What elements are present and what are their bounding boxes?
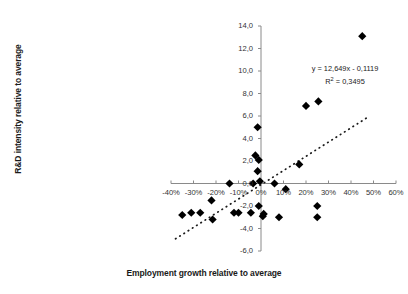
data-point-marker <box>314 97 322 105</box>
y-tick-label: 12,0 <box>219 44 253 53</box>
data-point-marker <box>256 177 264 185</box>
data-point-marker <box>313 202 321 210</box>
y-tick-label: -2,0 <box>219 201 253 210</box>
data-point-marker <box>270 179 278 187</box>
y-tick-label: -6,0 <box>219 246 253 255</box>
data-point-marker <box>187 209 195 217</box>
regression-annotation: y = 12,649x - 0,1119 R2 = 0,3495 <box>295 64 395 87</box>
scatter-chart: R&D intensity relative to average Employ… <box>0 0 408 294</box>
data-point-marker <box>302 102 310 110</box>
data-point-marker <box>358 32 366 40</box>
data-point-marker <box>254 123 262 131</box>
r-squared-value: = 0,3495 <box>334 77 365 86</box>
y-tick-label: 2,0 <box>219 156 253 165</box>
y-tick-label: 8,0 <box>219 89 253 98</box>
data-point-marker <box>178 211 186 219</box>
data-point-marker <box>295 160 303 168</box>
data-point-marker <box>196 209 204 217</box>
y-tick-label: -4,0 <box>219 224 253 233</box>
data-point-marker <box>254 167 262 175</box>
y-tick-label: 6,0 <box>219 111 253 120</box>
data-point-marker <box>255 202 263 210</box>
x-tick-label: 60% <box>378 188 408 197</box>
y-tick-label: 0,0 <box>219 179 253 188</box>
y-tick-label: 4,0 <box>219 134 253 143</box>
plot-area <box>0 0 408 294</box>
regression-equation: y = 12,649x - 0,1119 <box>295 64 395 74</box>
y-tick-label: 14,0 <box>219 21 253 30</box>
y-tick-label: 10,0 <box>219 66 253 75</box>
data-point-marker <box>275 213 283 221</box>
data-point-marker <box>207 196 215 204</box>
data-point-marker <box>313 213 321 221</box>
r-squared-line: R2 = 0,3495 <box>295 74 395 87</box>
